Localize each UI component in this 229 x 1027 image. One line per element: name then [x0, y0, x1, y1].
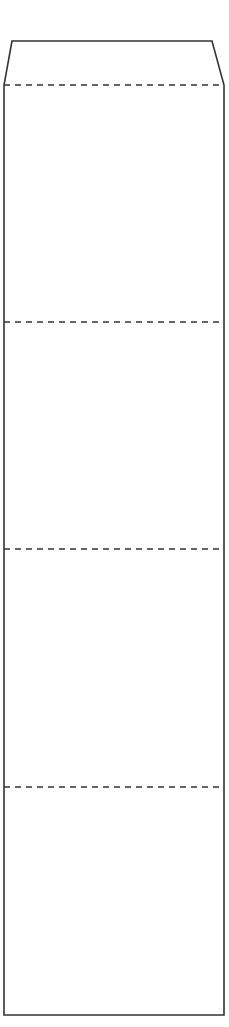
- diagram-canvas: [0, 0, 229, 1027]
- column-outline-diagram: [0, 0, 229, 1027]
- column-outline: [4, 41, 224, 1015]
- dashed-dividers: [4, 85, 224, 787]
